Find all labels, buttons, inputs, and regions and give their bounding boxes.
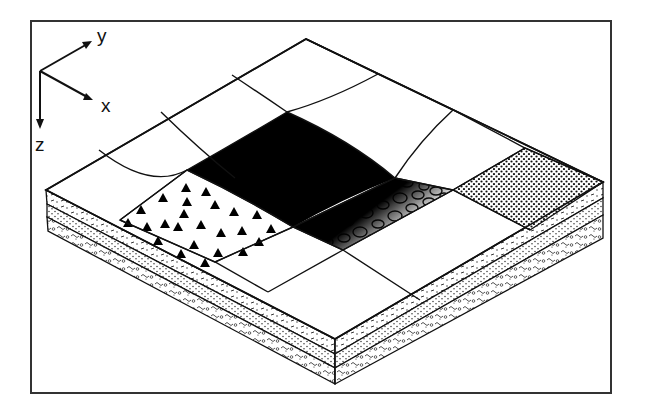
block-diagram: y x z <box>0 0 646 410</box>
axis-label-z: z <box>35 134 45 155</box>
axis-label-y: y <box>97 25 107 46</box>
axis-label-x: x <box>101 95 111 116</box>
axis-triad <box>36 41 93 129</box>
